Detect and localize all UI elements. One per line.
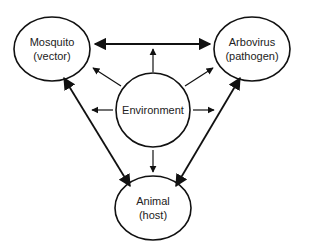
arbovirus-label-line2: (pathogen) — [225, 49, 278, 63]
arbovirus-label-line1: Arbovirus — [225, 35, 278, 49]
animal-label-line2: (host) — [136, 208, 170, 222]
env-to-mosquito-arrow — [93, 68, 121, 86]
env-to-arbovirus-arrow — [185, 68, 213, 86]
arbovirus-label: Arbovirus (pathogen) — [225, 35, 278, 63]
environment-label-line1: Environment — [122, 103, 184, 117]
mosquito-label: Mosquito (vector) — [30, 35, 75, 63]
mosquito-label-line2: (vector) — [30, 49, 75, 63]
environment-label: Environment — [122, 103, 184, 117]
mosquito-label-line1: Mosquito — [30, 35, 75, 49]
animal-label-line1: Animal — [136, 194, 170, 208]
animal-label: Animal (host) — [136, 194, 170, 222]
